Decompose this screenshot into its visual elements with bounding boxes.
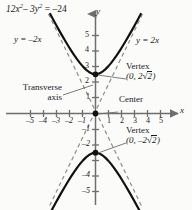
y-tick-label-1: 1 (86, 93, 90, 101)
transverse-axis-label: Transverse axis (4, 82, 62, 102)
x-tick-label-2: 2 (120, 117, 124, 125)
asymptote-neg-x: x (38, 34, 42, 44)
x-axis-label: x (180, 106, 184, 115)
equation-rhs: –24 (52, 4, 66, 14)
y-tick-label-5: 5 (85, 31, 89, 39)
x-tick-label-4: 4 (146, 117, 150, 125)
vertex-bottom-coordinate: (0, –2√2) (126, 135, 160, 145)
vertex-bottom-coord-close: ) (157, 135, 160, 145)
vertex-bottom-point (93, 150, 99, 156)
vertex-top-coord-open: (0, 2 (126, 71, 143, 81)
vertex-top-radical: √2 (143, 71, 153, 81)
y-tick-label-neg2: –2 (82, 140, 90, 148)
y-tick-label-neg5: –5 (82, 187, 90, 195)
vertex-top-point (93, 71, 99, 77)
plot-canvas (0, 0, 192, 210)
x-tick-label-5: 5 (159, 117, 163, 125)
vertex-top-radicand: 2 (147, 71, 153, 81)
hyperbola-figure: 12x2– 3y2 = –24 y = –2x y = 2x Transvers… (0, 0, 192, 210)
asymptote-label-positive: y = 2x (136, 36, 159, 45)
asymptote-label-negative: y = –2x (14, 35, 42, 44)
center-label-text: Center (119, 94, 143, 104)
asymptote-neg-eq: = –2 (18, 34, 38, 44)
equation-y-exponent: 2 (39, 2, 42, 9)
y-tick-label-4: 4 (85, 46, 89, 54)
vertex-top-coord-close: ) (152, 71, 155, 81)
x-tick-label-1: 1 (107, 117, 111, 125)
x-tick-label-neg3: –3 (52, 117, 60, 125)
transverse-axis-line1: Transverse (4, 82, 62, 92)
vertex-top-title: Vertex (126, 62, 155, 71)
vertex-bottom-title: Vertex (126, 126, 160, 135)
asymptote-pos-x: x (155, 35, 159, 45)
equation-label: 12x2– 3y2 = –24 (6, 3, 67, 15)
y-tick-label-neg4: –4 (82, 171, 90, 179)
vertex-bottom-radicand: 2 (151, 135, 157, 145)
equation-coeff-a: 12 (6, 4, 16, 14)
vertex-bottom-label: Vertex (0, –2√2) (126, 126, 160, 146)
center-point (93, 111, 99, 117)
x-tick-label-3: 3 (133, 117, 137, 125)
y-axis-label: y (96, 7, 100, 16)
equation-minus: – (23, 4, 28, 14)
x-tick-label-neg4: –4 (39, 117, 47, 125)
center-label: Center (119, 95, 143, 104)
x-tick-label-neg5: –5 (26, 117, 34, 125)
equation-equals: = (45, 4, 50, 14)
x-tick-label-neg2: –2 (65, 117, 73, 125)
vertex-bottom-coord-open: (0, –2 (126, 135, 147, 145)
y-tick-label-2: 2 (85, 77, 89, 85)
transverse-axis-line2: axis (4, 92, 62, 102)
vertex-top-label: Vertex (0, 2√2) (126, 62, 155, 82)
vertex-top-coordinate: (0, 2√2) (126, 71, 155, 81)
asymptote-pos-eq: = 2 (140, 35, 155, 45)
vertex-bottom-radical: √2 (147, 135, 157, 145)
y-tick-label-3: 3 (85, 62, 89, 70)
y-tick-label-neg1: –1 (82, 125, 90, 133)
